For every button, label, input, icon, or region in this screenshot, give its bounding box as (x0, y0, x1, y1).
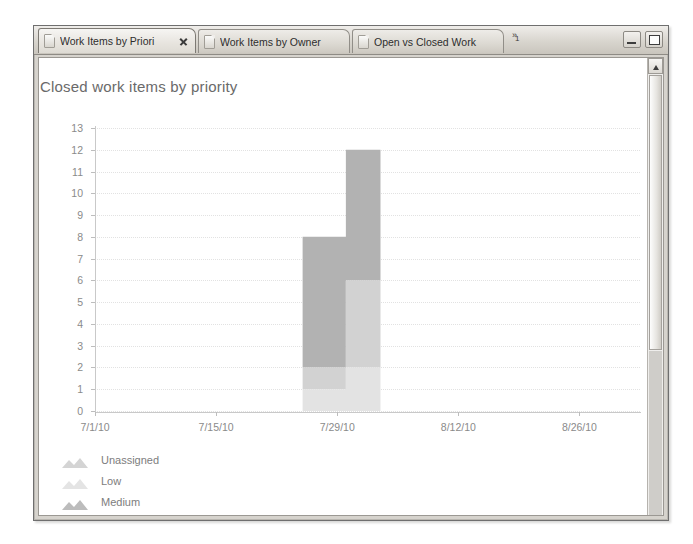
report-icon (44, 34, 55, 48)
restore-button[interactable] (645, 31, 663, 48)
scrollbar-thumb[interactable] (649, 75, 662, 350)
scroll-up-button[interactable] (648, 58, 663, 74)
stacked-area-series (95, 128, 640, 411)
tab-work-items-by-owner[interactable]: Work Items by Owner (198, 29, 350, 53)
y-tick-label: 2 (43, 361, 83, 373)
tab-label: Open vs Closed Work (374, 36, 497, 48)
legend-swatch-icon (62, 475, 88, 486)
legend-swatch-icon (62, 454, 88, 465)
x-tick-label: 8/12/10 (441, 421, 476, 433)
legend-item-medium[interactable]: Medium (62, 491, 159, 512)
x-tick-mark (95, 412, 96, 416)
y-tick-label: 0 (43, 405, 83, 417)
x-tick-mark (579, 412, 580, 416)
vertical-scrollbar[interactable] (647, 58, 663, 515)
scroll-up-icon (653, 65, 659, 70)
desktop-background: Work Items by Priori Work Items by Owner… (0, 0, 693, 544)
legend-item-low[interactable]: Low (62, 470, 159, 491)
x-tick-label: 7/29/10 (320, 421, 355, 433)
y-tick-label: 9 (43, 209, 83, 221)
y-tick-label: 4 (43, 318, 83, 330)
tab-label: Work Items by Owner (220, 36, 343, 48)
window-controls (623, 31, 663, 48)
legend-swatch-icon (62, 496, 88, 507)
x-tick-label: 8/26/10 (562, 421, 597, 433)
report-icon (204, 35, 215, 49)
chart-legend: Unassigned Low Medium (62, 449, 159, 512)
y-tick-label: 6 (43, 274, 83, 286)
legend-label: Low (101, 475, 121, 487)
legend-item-unassigned[interactable]: Unassigned (62, 449, 159, 470)
y-tick-label: 3 (43, 340, 83, 352)
y-tick-label: 11 (43, 166, 83, 178)
y-tick-label: 7 (43, 253, 83, 265)
legend-label: Unassigned (101, 454, 159, 466)
minimize-button[interactable] (623, 31, 641, 48)
report-icon (358, 35, 369, 49)
close-icon[interactable] (178, 36, 189, 47)
chart-title: Closed work items by priority (40, 78, 238, 95)
tab-overflow-indicator[interactable]: » 1 (512, 31, 519, 51)
x-tick-mark (458, 412, 459, 416)
chart-plot-area (95, 128, 640, 411)
tab-work-items-by-priority[interactable]: Work Items by Priori (38, 28, 196, 53)
x-tick-label: 7/1/10 (80, 421, 109, 433)
tab-open-vs-closed-work[interactable]: Open vs Closed Work (352, 29, 504, 53)
x-tick-mark (337, 412, 338, 416)
y-tick-label: 8 (43, 231, 83, 243)
y-tick-label: 10 (43, 187, 83, 199)
y-tick-label: 1 (43, 383, 83, 395)
x-tick-mark (216, 412, 217, 416)
overflow-count: 1 (515, 35, 519, 43)
x-tick-label: 7/15/10 (199, 421, 234, 433)
tab-label: Work Items by Priori (60, 35, 174, 47)
tab-strip: Work Items by Priori Work Items by Owner… (34, 26, 668, 55)
y-tick-label: 5 (43, 296, 83, 308)
y-tick-label: 13 (43, 122, 83, 134)
legend-label: Medium (101, 496, 140, 508)
scrollbar-track[interactable] (649, 351, 662, 515)
y-tick-label: 12 (43, 144, 83, 156)
x-axis-line (95, 412, 641, 413)
